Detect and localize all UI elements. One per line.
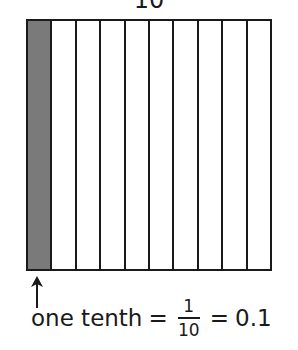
caption: one tenth = 1 10 = 0.1 [31,290,272,346]
fraction-bar [178,317,200,319]
grid-column [52,21,76,269]
grid-column [126,21,150,269]
numerator: 1 [183,297,194,315]
caption-words: one tenth [31,305,142,331]
equals-sign: = [148,305,167,331]
top-label: 10 [0,0,298,14]
grid-column [77,21,101,269]
grid-column [174,21,198,269]
equals-sign: = [210,305,229,331]
tenths-grid [26,19,272,271]
grid-column-shaded [28,21,52,269]
grid-column [223,21,247,269]
decimal-value: 0.1 [235,305,272,331]
fraction: 1 10 [178,297,200,339]
grid-column [150,21,174,269]
grid-column [248,21,270,269]
grid-column [199,21,223,269]
denominator: 10 [178,321,200,339]
grid-column [101,21,125,269]
